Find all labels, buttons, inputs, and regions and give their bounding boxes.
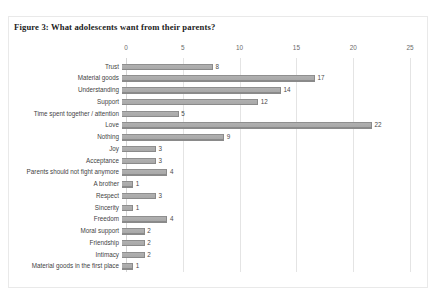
bar-track: 22 — [122, 120, 436, 132]
category-label: Trust — [0, 64, 122, 70]
chart-row: Respect3 — [0, 190, 436, 202]
bar-track: 3 — [122, 155, 436, 167]
chart-row: Nothing9 — [0, 132, 436, 144]
chart-row: Understanding14 — [0, 85, 436, 97]
chart-row: A brother1 — [0, 179, 436, 191]
bar[interactable] — [122, 181, 133, 187]
bar-value-label: 5 — [181, 111, 185, 117]
bar-track: 4 — [122, 167, 436, 179]
category-label: Support — [0, 99, 122, 105]
category-label: Moral support — [0, 228, 122, 234]
bar-value-label: 3 — [159, 193, 163, 199]
chart-row: Intimacy2 — [0, 249, 436, 261]
x-tick-label: 0 — [124, 44, 128, 51]
bar[interactable] — [122, 134, 224, 140]
bar[interactable] — [122, 111, 179, 117]
bar-track: 2 — [122, 249, 436, 261]
chart-row: Love22 — [0, 120, 436, 132]
bar-track: 5 — [122, 108, 436, 120]
bar-value-label: 3 — [159, 146, 163, 152]
chart-row: Joy3 — [0, 143, 436, 155]
bar[interactable] — [122, 252, 145, 258]
bar-track: 17 — [122, 73, 436, 85]
bar-value-label: 22 — [374, 122, 381, 128]
bar-track: 1 — [122, 202, 436, 214]
chart-row: Parents should not fight anymore4 — [0, 167, 436, 179]
category-label: Time spent together / attention — [0, 111, 122, 117]
bar[interactable] — [122, 122, 372, 128]
bar-value-label: 2 — [147, 252, 151, 258]
bar-value-label: 2 — [147, 228, 151, 234]
bar-value-label: 14 — [284, 87, 291, 93]
category-label: Nothing — [0, 134, 122, 140]
x-axis-tick-labels: 0510152025 — [126, 44, 410, 56]
bar[interactable] — [122, 158, 156, 164]
category-label: Sincerity — [0, 205, 122, 211]
category-label: Love — [0, 122, 122, 128]
bar[interactable] — [122, 87, 281, 93]
category-label: Material goods — [0, 75, 122, 81]
bar[interactable] — [122, 205, 133, 211]
chart-row: Freedom4 — [0, 214, 436, 226]
chart-row: Sincerity1 — [0, 202, 436, 214]
bar-track: 3 — [122, 190, 436, 202]
category-label: Respect — [0, 193, 122, 199]
bar-value-label: 4 — [170, 169, 174, 175]
x-tick-label: 25 — [406, 44, 413, 51]
bar[interactable] — [122, 193, 156, 199]
chart-row: Material goods in the first place1 — [0, 261, 436, 273]
chart-row: Support12 — [0, 96, 436, 108]
x-tick-label: 20 — [350, 44, 357, 51]
category-label: Parents should not fight anymore — [0, 169, 122, 175]
bar-value-label: 8 — [215, 64, 219, 70]
chart-row: Acceptance3 — [0, 155, 436, 167]
bar-track: 1 — [122, 179, 436, 191]
chart-row: Trust8 — [0, 61, 436, 73]
bar-track: 14 — [122, 85, 436, 97]
category-label: Freedom — [0, 216, 122, 222]
bar-track: 9 — [122, 132, 436, 144]
category-label: Friendship — [0, 240, 122, 246]
bar-value-label: 3 — [159, 158, 163, 164]
chart-row: Moral support2 — [0, 226, 436, 238]
chart-row: Material goods17 — [0, 73, 436, 85]
bar[interactable] — [122, 99, 258, 105]
bar[interactable] — [122, 146, 156, 152]
bar-value-label: 9 — [227, 134, 231, 140]
bar[interactable] — [122, 75, 315, 81]
category-label: A brother — [0, 181, 122, 187]
bar[interactable] — [122, 216, 167, 222]
bar-chart: 0510152025 Trust8Material goods17Underst… — [0, 0, 436, 296]
chart-row: Time spent together / attention5 — [0, 108, 436, 120]
bar-track: 8 — [122, 61, 436, 73]
bar-value-label: 1 — [136, 181, 140, 187]
category-label: Understanding — [0, 87, 122, 93]
chart-rows: Trust8Material goods17Understanding14Sup… — [0, 61, 436, 273]
bar[interactable] — [122, 263, 133, 269]
x-tick-label: 10 — [236, 44, 243, 51]
category-label: Acceptance — [0, 158, 122, 164]
bar[interactable] — [122, 228, 145, 234]
bar-value-label: 1 — [136, 263, 140, 269]
bar-track: 4 — [122, 214, 436, 226]
bar-value-label: 12 — [261, 99, 268, 105]
category-label: Intimacy — [0, 252, 122, 258]
chart-row: Friendship2 — [0, 237, 436, 249]
bar-track: 2 — [122, 237, 436, 249]
bar-track: 1 — [122, 261, 436, 273]
bar[interactable] — [122, 169, 167, 175]
bar[interactable] — [122, 240, 145, 246]
bar-value-label: 17 — [318, 75, 325, 81]
bar-value-label: 4 — [170, 216, 174, 222]
x-tick-label: 5 — [181, 44, 185, 51]
bar-value-label: 1 — [136, 205, 140, 211]
category-label: Joy — [0, 146, 122, 152]
bar-track: 12 — [122, 96, 436, 108]
bar-value-label: 2 — [147, 240, 151, 246]
category-label: Material goods in the first place — [0, 263, 122, 269]
bar-track: 2 — [122, 226, 436, 238]
bar[interactable] — [122, 64, 213, 70]
bar-track: 3 — [122, 143, 436, 155]
x-tick-label: 15 — [293, 44, 300, 51]
